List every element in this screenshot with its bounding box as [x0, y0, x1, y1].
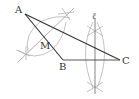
- point-c-label: C: [122, 55, 130, 66]
- line-l-label: ℓ: [92, 11, 96, 21]
- point-a-label: A: [14, 4, 23, 15]
- point-m-label: M: [40, 40, 50, 51]
- segment-ab: [25, 14, 63, 60]
- point-b-label: B: [59, 61, 66, 72]
- geometry-diagram: A B C M ℓ: [0, 0, 139, 99]
- segment-ac: [25, 14, 120, 60]
